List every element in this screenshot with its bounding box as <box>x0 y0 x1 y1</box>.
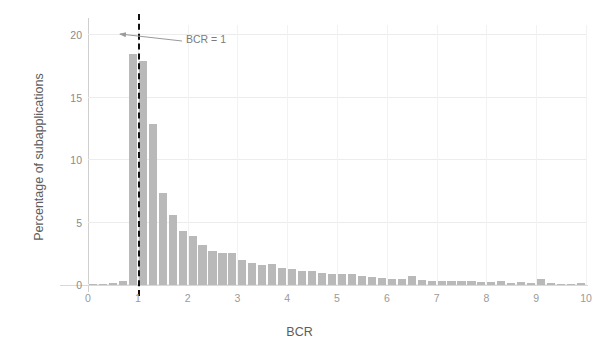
bar <box>189 236 197 285</box>
bar <box>198 245 206 285</box>
bar <box>537 279 545 285</box>
bar <box>567 284 575 285</box>
bar <box>507 283 515 286</box>
bar <box>308 271 316 285</box>
bar <box>477 282 485 285</box>
bar <box>218 253 226 286</box>
bcr-reference-line <box>138 14 140 296</box>
bar <box>179 231 187 285</box>
bar <box>99 284 107 285</box>
bar <box>547 283 555 286</box>
bar <box>268 264 276 285</box>
bar <box>159 193 167 286</box>
bar <box>119 281 127 285</box>
x-tick-label: 3 <box>234 292 240 304</box>
bar <box>457 281 465 285</box>
x-tick-label: 1 <box>135 292 141 304</box>
plot-area <box>88 25 586 285</box>
x-tick-label: 10 <box>580 292 592 304</box>
y-axis-label-anchor: Percentage of subapplications <box>20 0 21 1</box>
bar <box>467 281 475 285</box>
x-tick-label: 2 <box>185 292 191 304</box>
bar <box>318 273 326 285</box>
bar <box>398 279 406 285</box>
bar <box>447 281 455 285</box>
y-tick-label: 20 <box>56 29 82 41</box>
x-tick-label: 6 <box>384 292 390 304</box>
y-tick-label: 10 <box>56 154 82 166</box>
gridline-vertical <box>586 25 587 285</box>
x-axis-label: BCR <box>0 325 599 339</box>
x-tick-label: 8 <box>483 292 489 304</box>
bar <box>278 268 286 285</box>
bar <box>149 124 157 285</box>
bar <box>248 263 256 285</box>
bar <box>388 279 396 285</box>
bar <box>139 61 147 285</box>
x-tick-label: 0 <box>85 292 91 304</box>
bar <box>557 284 565 285</box>
bar <box>438 281 446 285</box>
bar <box>298 271 306 285</box>
bar <box>378 278 386 286</box>
bar <box>89 284 97 285</box>
bar <box>129 54 137 285</box>
y-tick-label: 15 <box>56 92 82 104</box>
x-tick-label: 5 <box>334 292 340 304</box>
x-tick-label: 9 <box>533 292 539 304</box>
bar <box>577 283 585 285</box>
bar <box>428 281 436 285</box>
bar <box>408 276 416 285</box>
chart-container: Percentage of subapplications 05101520 0… <box>0 0 599 351</box>
y-tick-label: 0 <box>56 279 82 291</box>
bcr-annotation-label: BCR = 1 <box>186 33 226 45</box>
bar <box>358 276 366 285</box>
x-tick-label: 7 <box>434 292 440 304</box>
bar <box>348 274 356 285</box>
bar <box>208 251 216 285</box>
bar <box>418 280 426 285</box>
bar <box>288 269 296 285</box>
bar <box>487 282 495 285</box>
bar <box>169 215 177 285</box>
bar <box>109 283 117 285</box>
bar <box>338 274 346 285</box>
bar <box>517 282 525 285</box>
bar <box>527 283 535 286</box>
bar <box>228 253 236 285</box>
bar-series <box>88 25 586 285</box>
y-axis-label: Percentage of subapplications <box>32 32 46 282</box>
bar <box>328 274 336 285</box>
bar <box>238 260 246 285</box>
y-tick-label: 5 <box>56 217 82 229</box>
y-tick-labels: 05101520 <box>52 0 82 351</box>
bar <box>258 265 266 285</box>
bar <box>497 281 505 285</box>
bar <box>368 277 376 285</box>
x-tick-label: 4 <box>284 292 290 304</box>
